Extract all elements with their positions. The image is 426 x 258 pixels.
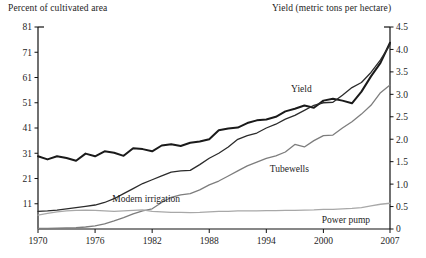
x-tick-label: 1976 (86, 236, 105, 246)
y2-tick-label: 0.5 (396, 202, 408, 212)
y2-tick-label: 2.0 (396, 135, 408, 145)
chart-figure: Percent of cultivated area Yield (metric… (0, 0, 426, 258)
series-label-tubewells: Tubewells (270, 164, 310, 174)
chart-plot-area: 1121314151617181 00.51.01.52.02.53.03.54… (0, 0, 426, 258)
y-tick-label: 51 (23, 98, 33, 108)
x-axis: 1970197619821988199420002007 (29, 229, 400, 246)
series-line-modern-irrigation (38, 45, 390, 212)
series-label-modern-irrigation: Modern irrigation (112, 194, 180, 204)
y2-tick-label: 3.5 (396, 67, 408, 77)
series-lines (38, 43, 390, 229)
x-tick-label: 1970 (29, 236, 48, 246)
y-tick-label: 61 (23, 73, 33, 83)
y-tick-label: 81 (23, 22, 33, 32)
series-label-power-pump: Power pump (322, 215, 371, 225)
x-tick-label: 1982 (143, 236, 162, 246)
y-tick-label: 11 (23, 199, 32, 209)
y-tick-label: 31 (23, 149, 33, 159)
x-tick-label: 2000 (314, 236, 333, 246)
y2-tick-label: 4.0 (396, 45, 408, 55)
left-axis: 1121314151617181 (23, 22, 45, 229)
y2-tick-label: 1.0 (396, 180, 408, 190)
y-tick-label: 71 (23, 48, 33, 58)
y2-tick-label: 1.5 (396, 157, 408, 167)
x-tick-label: 2007 (381, 236, 400, 246)
y-tick-label: 41 (23, 123, 33, 133)
y2-tick-label: 3.0 (396, 90, 408, 100)
series-line-yield (38, 43, 390, 161)
x-tick-label: 1994 (257, 236, 276, 246)
x-tick-label: 1988 (200, 236, 219, 246)
series-annotations: YieldModern irrigationTubewellsPower pum… (112, 84, 370, 226)
series-line-tubewells (38, 85, 390, 228)
series-label-yield: Yield (291, 84, 312, 94)
y2-tick-label: 0 (396, 224, 401, 234)
y2-tick-label: 4.5 (396, 22, 408, 32)
y-tick-label: 21 (23, 174, 33, 184)
right-axis: 00.51.01.52.02.53.03.54.04.5 (384, 22, 408, 234)
y2-tick-label: 2.5 (396, 112, 408, 122)
